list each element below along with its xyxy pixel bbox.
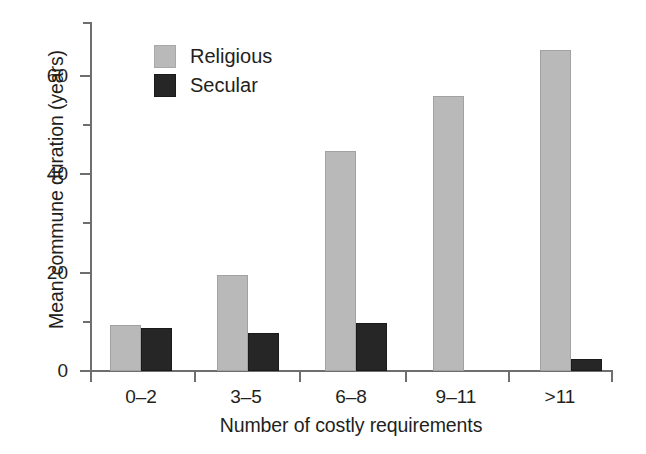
y-tick-30 (83, 222, 91, 224)
bar-secular-gt11 (571, 359, 602, 371)
y-tick-20 (80, 272, 91, 274)
x-tick-5 (611, 371, 613, 382)
x-tick-1 (194, 371, 196, 382)
bar-secular-3-5 (248, 333, 279, 371)
y-tick-40 (80, 173, 91, 175)
x-tick-label-3-5: 3–5 (194, 386, 298, 408)
bar-religious-3-5 (217, 275, 248, 371)
legend-item-secular: Secular (154, 71, 272, 100)
x-tick-label-gt11: >11 (508, 386, 612, 408)
secular-swatch-icon (154, 74, 176, 97)
legend: Religious Secular (154, 42, 272, 100)
x-tick-0 (90, 371, 92, 382)
x-tick-label-6-8: 6–8 (299, 386, 403, 408)
bar-religious-6-8 (325, 151, 356, 371)
x-axis-title: Number of costly requirements (90, 414, 612, 437)
y-tick-label-60: 60 (28, 66, 68, 85)
y-tick-label-20: 20 (28, 263, 68, 282)
x-tick-label-9-11: 9–11 (404, 386, 508, 408)
y-tick-label-0: 0 (28, 361, 68, 380)
bar-chart: Mean commune duration (years) 60 40 20 0… (0, 0, 646, 454)
bar-secular-6-8 (356, 323, 387, 371)
legend-item-religious: Religious (154, 42, 272, 71)
x-tick-2 (299, 371, 301, 382)
legend-label-secular: Secular (190, 74, 258, 97)
legend-label-religious: Religious (190, 45, 272, 68)
y-tick-label-40: 40 (28, 164, 68, 183)
bar-religious-9-11 (433, 96, 464, 371)
y-tick-70 (83, 22, 91, 24)
bar-religious-gt11 (540, 50, 571, 371)
bar-religious-0-2 (110, 325, 141, 371)
y-tick-50 (83, 124, 91, 126)
y-tick-60 (80, 75, 91, 77)
x-tick-4 (508, 371, 510, 382)
bar-secular-0-2 (141, 328, 172, 371)
x-tick-label-0-2: 0–2 (89, 386, 193, 408)
x-tick-3 (405, 371, 407, 382)
religious-swatch-icon (154, 45, 176, 68)
y-tick-10 (83, 321, 91, 323)
